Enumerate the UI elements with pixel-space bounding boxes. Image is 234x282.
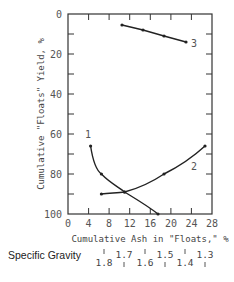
specific-gravity-title: Specific Gravity bbox=[8, 249, 82, 261]
y-tick-0: 0 bbox=[56, 9, 62, 20]
sg-1-8: 1.8 bbox=[95, 257, 112, 268]
sg-1-6: 1.6 bbox=[136, 257, 153, 268]
sg-1-3: 1.3 bbox=[196, 249, 213, 260]
y-tick-40: 40 bbox=[50, 89, 62, 100]
x-tick-28: 28 bbox=[206, 218, 218, 229]
curve-2-label: 2 bbox=[191, 161, 197, 172]
x-tick-20: 20 bbox=[165, 218, 177, 229]
x-tick-8: 8 bbox=[106, 218, 112, 229]
y-ticks-right bbox=[206, 34, 212, 194]
x-ticks-top bbox=[89, 14, 192, 20]
y-axis-title: Cumulative "Floats" Yield, % bbox=[36, 38, 46, 190]
curve-1-points bbox=[89, 144, 160, 215]
y-tick-labels: 0 20 40 60 80 100 bbox=[44, 9, 62, 220]
y-tick-80: 80 bbox=[50, 169, 62, 180]
curve-3-label: 3 bbox=[191, 38, 197, 49]
x-ticks-bottom bbox=[89, 208, 192, 214]
x-tick-12: 12 bbox=[124, 218, 136, 229]
curve-1 bbox=[91, 146, 158, 214]
y-tick-100: 100 bbox=[44, 209, 62, 220]
x-tick-16: 16 bbox=[144, 218, 156, 229]
curve-1-label: 1 bbox=[85, 129, 91, 140]
x-axis-title: Cumulative Ash in "Floats," % bbox=[71, 234, 229, 244]
sg-1-4: 1.4 bbox=[176, 257, 193, 268]
specific-gravity-scale: 1.8 1.7 1.6 1.5 1.4 1.3 bbox=[95, 249, 213, 268]
x-tick-0: 0 bbox=[65, 218, 71, 229]
x-tick-4: 4 bbox=[86, 218, 92, 229]
y-ticks-left bbox=[68, 34, 74, 194]
y-tick-20: 20 bbox=[50, 49, 62, 60]
x-tick-labels: 0 4 8 12 16 20 24 28 bbox=[65, 218, 218, 229]
y-tick-60: 60 bbox=[50, 129, 62, 140]
chart: 0 20 40 60 80 100 0 4 8 12 16 20 24 28 C… bbox=[0, 0, 234, 282]
sg-1-5: 1.5 bbox=[156, 249, 173, 260]
curve-3 bbox=[122, 25, 186, 42]
sg-1-7: 1.7 bbox=[115, 249, 132, 260]
x-tick-24: 24 bbox=[185, 218, 197, 229]
